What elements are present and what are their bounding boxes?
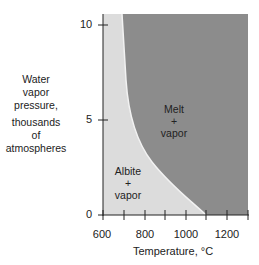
y-tick-5: 5 — [86, 113, 92, 125]
region-label-line: Melt — [152, 103, 196, 115]
x-tick-1200: 1200 — [213, 228, 241, 240]
x-tick-800: 800 — [135, 228, 155, 240]
y-title-line: Water — [0, 73, 72, 86]
y-title-line: thousands — [0, 116, 72, 129]
y-axis-title: Water vapor pressure, thousands of atmos… — [0, 73, 72, 155]
region-label-line: + — [106, 177, 150, 189]
y-title-line: pressure, — [0, 99, 72, 112]
x-axis-title: Temperature, °C — [118, 245, 228, 258]
y-tick-0: 0 — [86, 208, 92, 220]
x-tick-1000: 1000 — [172, 228, 200, 240]
region-label-line: Albite — [106, 165, 150, 177]
x-tick-600: 600 — [92, 228, 112, 240]
y-title-line: of — [0, 129, 72, 142]
y-title-line: vapor — [0, 86, 72, 99]
y-title-line: atmospheres — [0, 142, 72, 155]
region-label-line: vapor — [106, 189, 150, 201]
region-label-line: vapor — [152, 127, 196, 139]
albite-vapor-label: Albite + vapor — [106, 165, 150, 201]
y-tick-10: 10 — [80, 18, 92, 30]
region-label-line: + — [152, 115, 196, 127]
melt-vapor-label: Melt + vapor — [152, 103, 196, 139]
